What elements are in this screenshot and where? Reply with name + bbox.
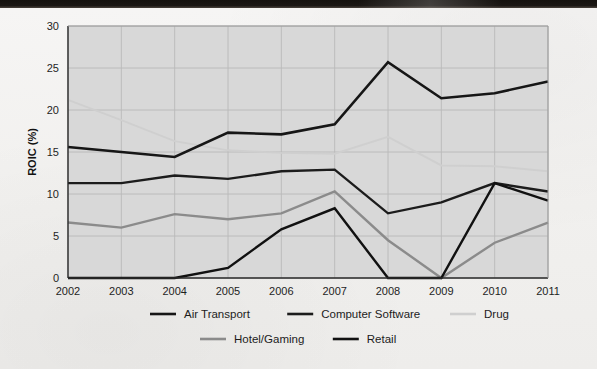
x-tick-label: 2009 [429,285,453,297]
legend-label-hotel-gaming: Hotel/Gaming [234,333,304,345]
x-axis-ticks: 2002200320042005200620072008200920102011 [56,285,560,297]
x-tick-label: 2010 [482,285,506,297]
x-tick-label: 2004 [162,285,186,297]
legend-label-air-transport: Air Transport [184,308,251,320]
x-tick-label: 2008 [376,285,400,297]
roic-line-chart: 051015202530 200220032004200520062007200… [0,0,597,369]
y-tick-label: 5 [53,230,59,242]
y-tick-label: 30 [47,20,59,32]
y-tick-label: 15 [47,146,59,158]
y-tick-label: 20 [47,104,59,116]
legend-label-computer-software: Computer Software [321,308,420,320]
x-tick-label: 2006 [269,285,293,297]
y-axis-ticks: 051015202530 [47,20,59,284]
y-tick-label: 10 [47,188,59,200]
legend-label-retail: Retail [367,333,396,345]
x-tick-label: 2002 [56,285,80,297]
x-tick-label: 2011 [536,285,560,297]
chart-canvas: 051015202530 200220032004200520062007200… [0,0,597,369]
y-axis-title: ROIC (%) [26,128,38,176]
y-axis-title-text: ROIC (%) [26,128,38,176]
x-tick-label: 2003 [109,285,133,297]
y-tick-label: 0 [53,272,59,284]
chart-legend: Air TransportComputer SoftwareDrugHotel/… [150,308,509,345]
x-tick-label: 2007 [322,285,346,297]
legend-label-drug: Drug [484,308,509,320]
y-tick-label: 25 [47,62,59,74]
x-tick-label: 2005 [216,285,240,297]
